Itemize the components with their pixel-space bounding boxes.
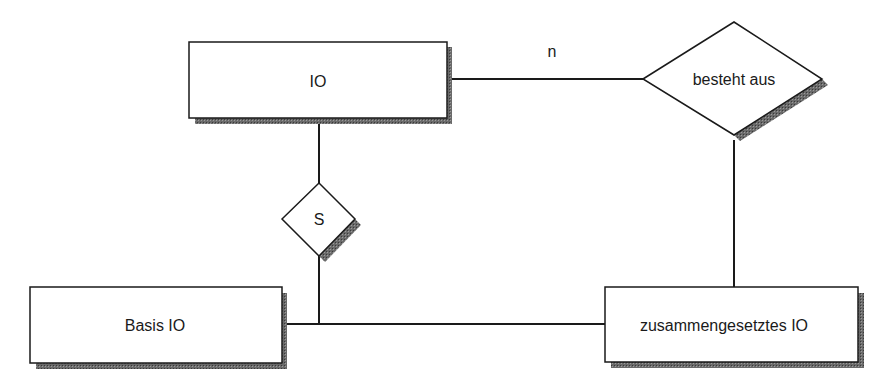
cardinality-label-top: n bbox=[548, 43, 557, 60]
entity-basis-io[interactable]: Basis IO bbox=[30, 287, 287, 369]
relationship-besteht-aus[interactable]: besteht aus bbox=[643, 22, 828, 141]
entity-label: Basis IO bbox=[125, 317, 185, 334]
entity-label: IO bbox=[310, 73, 327, 90]
relationship-label: besteht aus bbox=[693, 71, 776, 88]
entity-label: zusammengesetztes IO bbox=[640, 317, 808, 334]
entity-zusammengesetztes-io[interactable]: zusammengesetztes IO bbox=[605, 287, 864, 368]
er-diagram: IO besteht aus S Basis IO zusammengesetz… bbox=[0, 0, 893, 389]
relationship-label: S bbox=[314, 211, 325, 228]
relationship-specialization[interactable]: S bbox=[282, 183, 361, 262]
entity-io[interactable]: IO bbox=[189, 42, 452, 124]
